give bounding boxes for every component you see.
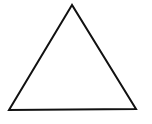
diagram-canvas — [0, 0, 152, 124]
triangle-shape — [9, 5, 136, 110]
triangle-figure — [0, 0, 152, 124]
